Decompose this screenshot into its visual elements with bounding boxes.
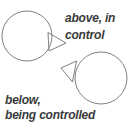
- label-below-being-controlled: below, being controlled: [5, 93, 95, 123]
- upper-circle: [2, 11, 52, 61]
- label-above-line2: control: [65, 27, 115, 44]
- diagram-canvas: above, in control below, being controlle…: [0, 0, 131, 129]
- label-below-line1: below,: [5, 93, 95, 108]
- lower-beak-triangle-icon: [61, 61, 77, 82]
- upper-beak-triangle-icon: [48, 33, 66, 52]
- label-above-line1: above, in: [65, 10, 115, 27]
- label-below-line2: being controlled: [5, 108, 95, 123]
- label-above-in-control: above, in control: [65, 10, 115, 44]
